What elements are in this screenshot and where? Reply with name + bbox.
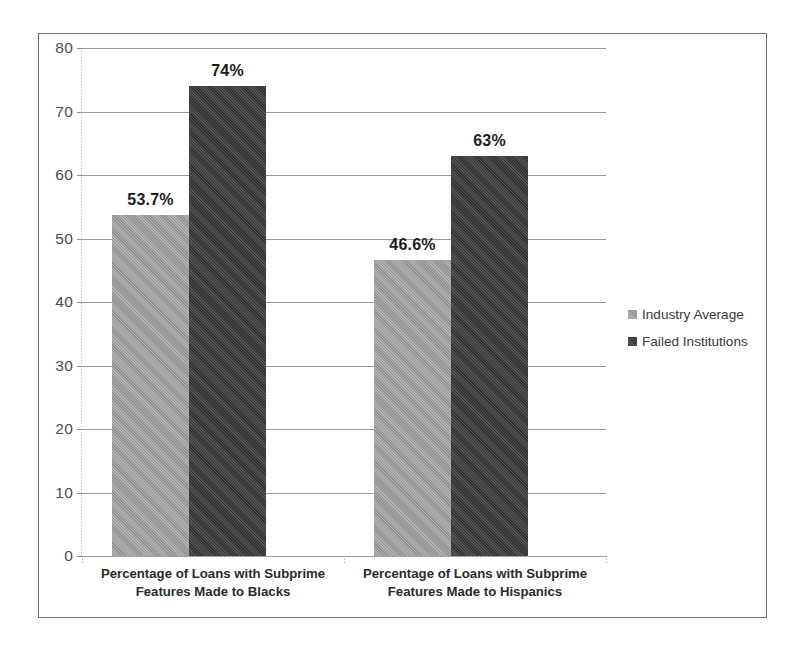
legend-item-industry-average[interactable]: Industry Average	[628, 301, 760, 328]
y-axis-tick	[77, 112, 82, 113]
y-axis-tick-label: 50	[55, 230, 73, 248]
y-axis-tick	[77, 366, 82, 367]
chart-figure: 01020304050607080 53.7%74%46.6%63% Perce…	[38, 33, 767, 618]
chart-legend: Industry Average Failed Institutions	[628, 301, 760, 355]
y-axis-tick-label: 40	[55, 293, 73, 311]
y-axis-tick-label: 20	[55, 420, 73, 438]
y-axis-tick-label: 60	[55, 166, 73, 184]
plot-area: 01020304050607080 53.7%74%46.6%63% Perce…	[82, 48, 606, 556]
y-axis-tick	[77, 302, 82, 303]
category-axis-tick	[606, 556, 607, 564]
category-axis-tick	[344, 556, 345, 564]
bar-1-1[interactable]	[451, 156, 528, 556]
y-axis-tick	[77, 175, 82, 176]
y-axis-tick	[77, 493, 82, 494]
y-axis-tick	[77, 429, 82, 430]
y-axis-tick-label: 10	[55, 484, 73, 502]
bar-0-1[interactable]	[374, 260, 451, 556]
legend-swatch-icon	[628, 337, 637, 346]
y-axis-tick-label: 70	[55, 103, 73, 121]
category-axis-tick	[82, 556, 83, 564]
gridline	[82, 112, 606, 113]
legend-swatch-icon	[628, 310, 637, 319]
bar-value-label: 63%	[473, 132, 506, 150]
y-axis-tick-label: 0	[64, 547, 73, 565]
y-axis-tick-label: 30	[55, 357, 73, 375]
bar-value-label: 46.6%	[389, 236, 435, 254]
y-axis-tick	[77, 239, 82, 240]
category-axis-label: Percentage of Loans with Subprime Featur…	[344, 565, 606, 601]
gridline	[82, 48, 606, 49]
legend-item-failed-institutions[interactable]: Failed Institutions	[628, 328, 760, 355]
legend-item-label: Industry Average	[642, 307, 744, 322]
category-axis-label: Percentage of Loans with Subprime Featur…	[82, 565, 344, 601]
bar-1-0[interactable]	[189, 86, 266, 556]
bar-value-label: 53.7%	[127, 191, 173, 209]
y-axis-tick-label: 80	[55, 39, 73, 57]
y-axis-tick	[77, 48, 82, 49]
bar-0-0[interactable]	[112, 215, 189, 556]
legend-item-label: Failed Institutions	[642, 334, 748, 349]
bar-value-label: 74%	[211, 62, 244, 80]
